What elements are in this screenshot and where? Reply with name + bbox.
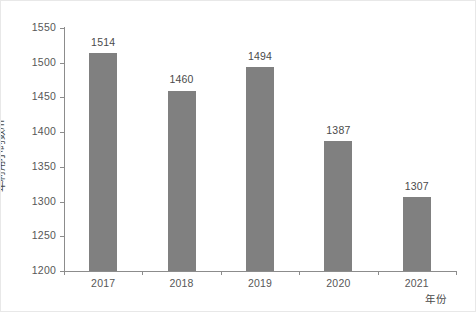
bar-2021[interactable]	[403, 197, 431, 271]
x-tick-mark	[456, 271, 457, 275]
bar-2019[interactable]	[246, 67, 274, 271]
plot-area	[64, 28, 456, 271]
x-category-label-2020: 2020	[308, 277, 368, 289]
y-tick-1200: 1200	[1, 271, 64, 272]
bar-2018[interactable]	[168, 91, 196, 272]
x-tick-mark	[64, 271, 65, 275]
x-category-label-2021: 2021	[387, 277, 447, 289]
y-tick-label: 1450	[32, 90, 56, 102]
x-category-label-2019: 2019	[230, 277, 290, 289]
y-tick-1350: 1350	[1, 167, 64, 168]
y-tick-1300: 1300	[1, 202, 64, 203]
x-axis-title: 年份	[425, 291, 446, 306]
y-tick-1400: 1400	[1, 132, 64, 133]
x-tick-mark	[378, 271, 379, 275]
y-tick-1550: 1550	[1, 28, 64, 29]
x-tick-mark	[299, 271, 300, 275]
x-axis-line	[64, 271, 457, 272]
y-tick-label: 1400	[32, 125, 56, 137]
x-tick-mark	[142, 271, 143, 275]
y-tick-label: 1200	[32, 264, 56, 276]
bar-value-label-2018: 1460	[152, 73, 212, 85]
x-category-label-2018: 2018	[152, 277, 212, 289]
bar-2020[interactable]	[324, 141, 352, 271]
y-tick-1250: 1250	[1, 236, 64, 237]
y-tick-label: 1350	[32, 160, 56, 172]
bar-value-label-2019: 1494	[230, 50, 290, 62]
y-tick-1500: 1500	[1, 63, 64, 64]
bar-value-label-2017: 1514	[73, 36, 133, 48]
bar-value-label-2020: 1387	[308, 124, 368, 136]
bar-chart-figure: 年利用小时数/h 1200125013001350140014501500155…	[0, 0, 476, 312]
y-tick-1450: 1450	[1, 97, 64, 98]
y-tick-label: 1500	[32, 56, 56, 68]
x-tick-mark	[221, 271, 222, 275]
bar-2017[interactable]	[89, 53, 117, 271]
y-tick-label: 1300	[32, 195, 56, 207]
x-category-label-2017: 2017	[73, 277, 133, 289]
y-tick-label: 1250	[32, 229, 56, 241]
bar-value-label-2021: 1307	[387, 180, 447, 192]
y-axis-title: 年利用小时数/h	[0, 120, 7, 193]
y-tick-label: 1550	[32, 21, 56, 33]
